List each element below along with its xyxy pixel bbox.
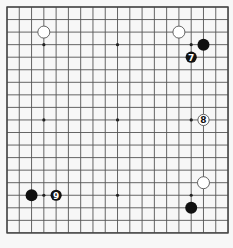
star-point bbox=[190, 118, 193, 121]
star-point bbox=[190, 43, 193, 46]
white-stone: 8 bbox=[198, 114, 209, 125]
move-number: 9 bbox=[53, 191, 59, 201]
black-stone bbox=[26, 189, 38, 201]
black-stone: 9 bbox=[51, 190, 62, 201]
star-point bbox=[42, 43, 45, 46]
black-stone bbox=[185, 202, 197, 214]
white-stone bbox=[38, 26, 50, 38]
star-point bbox=[42, 194, 45, 197]
black-stone bbox=[197, 39, 209, 51]
star-point bbox=[190, 194, 193, 197]
star-point bbox=[42, 118, 45, 121]
white-stone bbox=[197, 177, 209, 189]
star-point bbox=[116, 194, 119, 197]
move-number: 8 bbox=[200, 115, 206, 125]
move-number: 7 bbox=[188, 53, 194, 63]
star-point bbox=[116, 118, 119, 121]
black-stone: 7 bbox=[186, 52, 197, 63]
white-stone bbox=[173, 26, 185, 38]
star-point bbox=[116, 43, 119, 46]
go-board[interactable]: 789 bbox=[0, 0, 233, 248]
